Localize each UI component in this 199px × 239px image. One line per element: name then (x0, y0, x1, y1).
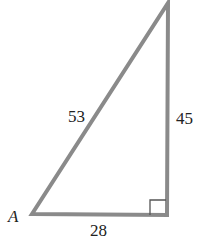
triangle-diagram: A 53 45 28 (0, 0, 199, 239)
right-angle-marker (150, 200, 166, 215)
vertical-leg-length-label: 45 (176, 110, 193, 127)
horizontal-leg-length-label: 28 (90, 222, 107, 239)
hypotenuse-length-label: 53 (68, 108, 85, 125)
triangle-shape (0, 0, 199, 239)
vertex-label-a: A (8, 208, 18, 225)
